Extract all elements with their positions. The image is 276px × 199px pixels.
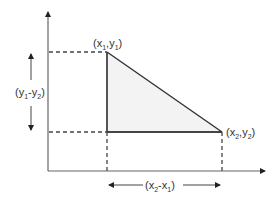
run-label: (x2-x1)	[145, 179, 175, 193]
rise-label: (y1-y2)	[15, 86, 45, 100]
slope-diagram: (x1,y1) (x2,y2) (y1-y2) (x2-x1)	[0, 0, 276, 199]
point1-label: (x1,y1)	[93, 37, 122, 51]
point2-label: (x2,y2)	[226, 126, 255, 140]
